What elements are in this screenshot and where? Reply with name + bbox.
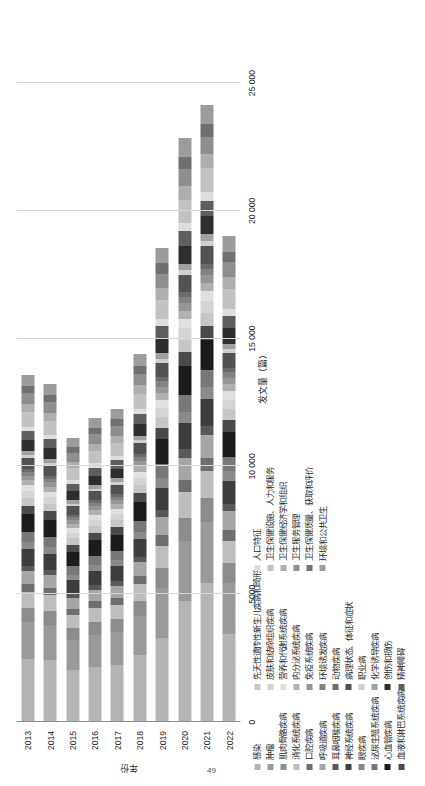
legend-item[interactable]: 眼疾病 bbox=[355, 690, 368, 770]
bar-segment[interactable] bbox=[110, 520, 123, 527]
bar-segment[interactable] bbox=[88, 451, 101, 464]
bar-segment[interactable] bbox=[133, 424, 146, 436]
legend-item[interactable]: 肌肉骨骼疾病 bbox=[276, 690, 289, 770]
bar-segment[interactable] bbox=[88, 667, 101, 722]
bar-segment[interactable] bbox=[178, 458, 191, 480]
bar-segment[interactable] bbox=[110, 436, 123, 444]
bar-segment[interactable] bbox=[66, 524, 79, 528]
bar-segment[interactable] bbox=[178, 449, 191, 458]
bar-segment[interactable] bbox=[43, 395, 56, 402]
bar-segment[interactable] bbox=[155, 393, 168, 400]
bar-segment[interactable] bbox=[43, 487, 56, 492]
bar-segment[interactable] bbox=[200, 426, 213, 435]
bar-segment[interactable] bbox=[110, 504, 123, 509]
bar-segment[interactable] bbox=[178, 157, 191, 169]
legend-item[interactable]: 泌尿生殖系统疾病 bbox=[368, 690, 381, 770]
bar-segment[interactable] bbox=[178, 292, 191, 297]
bar-segment[interactable] bbox=[133, 601, 146, 616]
bar-row[interactable] bbox=[222, 236, 235, 722]
bar-segment[interactable] bbox=[155, 478, 168, 487]
bar-segment[interactable] bbox=[43, 413, 56, 421]
bar-segment[interactable] bbox=[155, 359, 168, 363]
bar-segment[interactable] bbox=[110, 426, 123, 435]
bar-segment[interactable] bbox=[133, 366, 146, 374]
bar-segment[interactable] bbox=[155, 377, 168, 381]
bar-segment[interactable] bbox=[200, 264, 213, 269]
legend-item[interactable]: 肿瘤 bbox=[263, 690, 276, 770]
bar-segment[interactable] bbox=[155, 274, 168, 288]
bar-segment[interactable] bbox=[88, 608, 101, 622]
bar-segment[interactable] bbox=[43, 435, 56, 440]
bar-segment[interactable] bbox=[21, 412, 34, 426]
bar-segment[interactable] bbox=[66, 545, 79, 552]
bar-segment[interactable] bbox=[88, 590, 101, 602]
bar-segment[interactable] bbox=[200, 124, 213, 137]
bar-segment[interactable] bbox=[200, 435, 213, 457]
bar-segment[interactable] bbox=[155, 546, 168, 568]
bar-segment[interactable] bbox=[21, 549, 34, 565]
bar-segment[interactable] bbox=[88, 601, 101, 608]
legend-item[interactable]: 职业病 bbox=[355, 571, 368, 690]
bar-segment[interactable] bbox=[43, 459, 56, 463]
bar-segment[interactable] bbox=[178, 340, 191, 352]
bar-segment[interactable] bbox=[88, 485, 101, 489]
bar-segment[interactable] bbox=[155, 353, 168, 359]
bar-segment[interactable] bbox=[110, 497, 123, 500]
bar-segment[interactable] bbox=[155, 439, 168, 464]
bar-segment[interactable] bbox=[66, 615, 79, 628]
bar-segment[interactable] bbox=[88, 444, 101, 451]
bar-segment[interactable] bbox=[200, 301, 213, 312]
bar-segment[interactable] bbox=[43, 520, 56, 537]
bar-segment[interactable] bbox=[110, 560, 123, 566]
bar-segment[interactable] bbox=[133, 354, 146, 366]
bar-segment[interactable] bbox=[21, 386, 34, 394]
bar-segment[interactable] bbox=[178, 275, 191, 292]
bar-segment[interactable] bbox=[110, 482, 123, 484]
bar-segment[interactable] bbox=[155, 535, 168, 545]
bar-segment[interactable] bbox=[200, 471, 213, 498]
bar-segment[interactable] bbox=[133, 655, 146, 722]
bar-segment[interactable] bbox=[222, 236, 235, 252]
bar-segment[interactable] bbox=[133, 436, 146, 440]
bar-segment[interactable] bbox=[43, 448, 56, 459]
legend-item[interactable]: 环境诱发疾病 bbox=[315, 571, 328, 690]
bar-segment[interactable] bbox=[178, 264, 191, 271]
bar-segment[interactable] bbox=[43, 421, 56, 435]
bar-segment[interactable] bbox=[66, 538, 79, 544]
bar-segment[interactable] bbox=[200, 105, 213, 124]
bar-segment[interactable] bbox=[43, 402, 56, 412]
bar-segment[interactable] bbox=[178, 223, 191, 231]
legend-item[interactable]: 环境和公共卫生 bbox=[315, 467, 328, 571]
bar-segment[interactable] bbox=[200, 522, 213, 584]
bar-segment[interactable] bbox=[88, 540, 101, 556]
bar-segment[interactable] bbox=[178, 352, 191, 366]
bar-segment[interactable] bbox=[133, 414, 146, 423]
bar-segment[interactable] bbox=[21, 480, 34, 485]
bar-segment[interactable] bbox=[133, 466, 146, 471]
bar-segment[interactable] bbox=[43, 504, 56, 511]
bar-segment[interactable] bbox=[66, 520, 79, 524]
bar-segment[interactable] bbox=[43, 625, 56, 660]
bar-segment[interactable] bbox=[178, 423, 191, 450]
bar-segment[interactable] bbox=[21, 498, 34, 506]
bar-segment[interactable] bbox=[222, 511, 235, 530]
bar-segment[interactable] bbox=[222, 368, 235, 372]
bar-segment[interactable] bbox=[66, 670, 79, 722]
bar-segment[interactable] bbox=[133, 562, 146, 576]
bar-segment[interactable] bbox=[43, 554, 56, 570]
bar-segment[interactable] bbox=[110, 419, 123, 426]
legend-item[interactable]: 免疫系统疾病 bbox=[302, 571, 315, 690]
bar-segment[interactable] bbox=[43, 595, 56, 611]
bar-segment[interactable] bbox=[43, 482, 56, 487]
bar-segment[interactable] bbox=[66, 453, 79, 462]
bar-segment[interactable] bbox=[133, 521, 146, 532]
bar-segment[interactable] bbox=[178, 169, 191, 186]
bar-segment[interactable] bbox=[43, 511, 56, 519]
bar-segment[interactable] bbox=[155, 300, 168, 320]
bar-segment[interactable] bbox=[222, 349, 235, 353]
bar-segment[interactable] bbox=[178, 297, 191, 303]
legend-item[interactable]: 消化系统疾病 bbox=[289, 690, 302, 770]
bar-segment[interactable] bbox=[43, 479, 56, 483]
bar-segment[interactable] bbox=[155, 248, 168, 263]
bar-segment[interactable] bbox=[222, 344, 235, 350]
